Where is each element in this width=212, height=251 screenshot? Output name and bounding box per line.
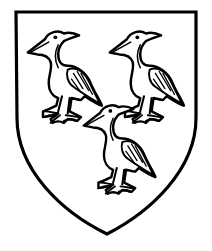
shield-svg <box>0 0 212 251</box>
coat-of-arms <box>0 0 212 251</box>
